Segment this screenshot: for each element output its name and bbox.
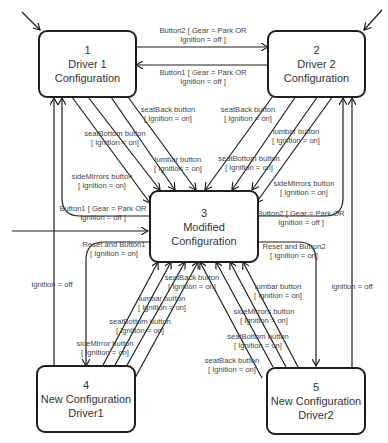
label-4-seatbottom: seatBottom button[ Ignition = on] bbox=[104, 317, 176, 335]
label-5-lumbar: lumbar button[ Ignition = on] bbox=[248, 282, 308, 300]
label-1-seatbottom: seatBottom button[ Ignition = on] bbox=[80, 129, 150, 147]
label-5-sidemirrors: sideMirrors button[ Ignition = on] bbox=[228, 307, 300, 325]
state-id: 4 bbox=[83, 378, 89, 392]
state-name-line1: Driver 1 bbox=[68, 57, 107, 71]
label-1-seatback: seatBack button[ Ignition = on] bbox=[136, 105, 200, 123]
state-name-line1: Modified bbox=[183, 220, 225, 234]
state-id: 1 bbox=[84, 43, 90, 57]
label-4-sidemirror: sideMirror button[ Ignition = on] bbox=[70, 339, 140, 357]
label-3-to-4: Reset and Button1[ Ignition = on] bbox=[76, 240, 152, 258]
label-1-sidemirrors: sideMirrors button[ Ignition = on] bbox=[66, 172, 138, 190]
state-name-line2: Driver2 bbox=[298, 408, 333, 422]
label-2-to-1: Button1 [ Gear = Park ORIgnition = off ] bbox=[155, 68, 251, 86]
state-id: 5 bbox=[313, 380, 319, 394]
label-4-to-1: ignition = off bbox=[22, 280, 82, 289]
label-4-seatback: seatBack button[ Ignition = on] bbox=[160, 273, 224, 291]
state-id: 3 bbox=[201, 206, 207, 220]
state-name-line2: Configuration bbox=[55, 71, 120, 85]
label-5-seatback: seatBack button[ Ignition = on] bbox=[200, 356, 264, 374]
label-3-to-5: Reset and Button2[ Ignition = on] bbox=[256, 242, 332, 260]
state-2-driver2-configuration[interactable]: 2 Driver 2 Configuration bbox=[267, 30, 366, 98]
label-2-lumbar: lumbar button[ Ignition = on] bbox=[266, 127, 326, 145]
state-name-line1: Driver 2 bbox=[297, 57, 336, 71]
state-1-driver1-configuration[interactable]: 1 Driver 1 Configuration bbox=[38, 30, 137, 98]
label-5-seatbottom: seatBottom button[ Ignition = on] bbox=[222, 332, 294, 350]
state-name-line1: New Configuration bbox=[41, 392, 132, 406]
label-3-to-2: Button2 [ Gear = Park ORIgnition = off ] bbox=[254, 209, 348, 227]
state-4-new-configuration-driver1[interactable]: 4 New Configuration Driver1 bbox=[36, 365, 136, 433]
label-2-sidemirrors: sideMirrors button[ Ignition = on] bbox=[268, 179, 340, 197]
label-2-seatback: seatBack button[ Ignition = on] bbox=[218, 105, 278, 123]
state-name-line2: Driver1 bbox=[68, 406, 103, 420]
label-4-lumbar: lumbar button[ Ignition = on] bbox=[132, 294, 192, 312]
label-2-seatbottom: seatBottom button[ Ignition = on] bbox=[214, 154, 284, 172]
state-name-line2: Configuration bbox=[284, 71, 349, 85]
state-3-modified-configuration[interactable]: 3 Modified Configuration bbox=[149, 190, 259, 263]
state-5-new-configuration-driver2[interactable]: 5 New Configuration Driver2 bbox=[266, 367, 366, 435]
state-name-line1: New Configuration bbox=[271, 394, 362, 408]
state-name-line2: Configuration bbox=[171, 234, 236, 248]
label-5-to-2: ignition = off bbox=[322, 282, 382, 291]
label-1-to-2: Button2 [ Gear = Park ORIgnition = off ] bbox=[155, 26, 251, 44]
state-id: 2 bbox=[313, 43, 319, 57]
label-1-lumbar: lumbar button[ Ignition = on] bbox=[148, 155, 208, 173]
label-3-to-1: Button1 [ Gear = Park ORIgnition = off ] bbox=[56, 204, 150, 222]
